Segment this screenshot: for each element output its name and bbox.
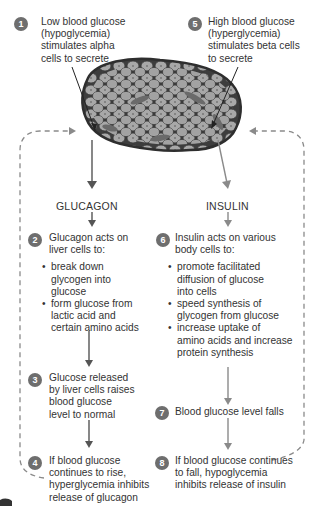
step-3-line: level to normal xyxy=(49,409,135,421)
step-7-line: Blood glucose level falls xyxy=(175,406,284,418)
bullet-line: lactic acid and xyxy=(51,310,164,322)
step-3-line: blood glucose xyxy=(49,396,135,408)
islet-cells-illustration xyxy=(82,59,240,151)
step-5-line: High blood glucose xyxy=(208,16,300,28)
step-6-bullets: promote facilitated diffusion of glucose… xyxy=(168,261,315,359)
step-4-badge: 4 xyxy=(28,456,42,470)
step-6-text: Insulin acts on various body cells to: p… xyxy=(175,232,315,359)
bullet-line: diffusion of glucose xyxy=(177,274,315,286)
bullet-item: promote facilitated diffusion of glucose… xyxy=(168,261,315,298)
step-5-line: to secrete xyxy=(208,53,300,65)
step-1-text: Low blood glucose (hypoglycemia) stimula… xyxy=(41,16,125,65)
glucagon-label: GLUCAGON xyxy=(56,200,118,212)
insulin-label: INSULIN xyxy=(206,200,249,212)
step-3-line: Glucose released xyxy=(49,372,135,384)
bullet-line: break down xyxy=(51,261,164,273)
bullet-line: glycogen from glucose xyxy=(177,310,315,322)
step-2-badge: 2 xyxy=(28,233,42,247)
step-1-line: stimulates alpha xyxy=(41,40,125,52)
step-1-line: cells to secrete xyxy=(41,53,125,65)
bullet-line: speed synthesis of xyxy=(177,298,315,310)
step-8-badge: 8 xyxy=(155,456,169,470)
step-8-line: to fall, hypoglycemia xyxy=(175,467,293,479)
bullet-item: form glucose from lactic acid and certai… xyxy=(42,298,164,335)
bullet-item: break down glycogen into glucose xyxy=(42,261,164,298)
step-4-line: release of glucagon xyxy=(49,492,149,504)
step-5-line: (hyperglycemia) xyxy=(208,28,300,40)
step-2-line: Glucagon acts on xyxy=(49,232,164,244)
step-4-line: hyperglycemia inhibits xyxy=(49,479,149,491)
step-1-badge: 1 xyxy=(14,17,28,31)
step-3-badge: 3 xyxy=(28,373,42,387)
step-6-line: Insulin acts on various xyxy=(175,232,315,244)
step-5-badge: 5 xyxy=(188,17,202,31)
step-2-line: liver cells to: xyxy=(49,244,164,256)
bullet-line: amino acids and increase xyxy=(177,335,315,347)
bullet-line: glycogen into xyxy=(51,274,164,286)
step-6-badge: 6 xyxy=(156,233,170,247)
step-8-line: If blood glucose continues xyxy=(175,455,293,467)
step-7-text: Blood glucose level falls xyxy=(175,406,284,418)
bullet-line: into cells xyxy=(177,286,315,298)
step-5-line: stimulates beta cells xyxy=(208,40,300,52)
bullet-item: speed synthesis of glycogen from glucose xyxy=(168,298,315,322)
step-2-bullets: break down glycogen into glucose form gl… xyxy=(42,261,164,334)
step-4-line: continues to rise, xyxy=(49,467,149,479)
bullet-line: form glucose from xyxy=(51,298,164,310)
bullet-item: increase uptake of amino acids and incre… xyxy=(168,322,315,359)
step-8-line: inhibits release of insulin xyxy=(175,479,293,491)
step-4-line: If blood glucose xyxy=(49,455,149,467)
step-3-text: Glucose released by liver cells raises b… xyxy=(49,372,135,421)
step-1-line: Low blood glucose xyxy=(41,16,125,28)
bullet-line: protein synthesis xyxy=(177,347,315,359)
step-2-text: Glucagon acts on liver cells to: break d… xyxy=(49,232,164,335)
step-6-line: body cells to: xyxy=(175,244,315,256)
bullet-line: certain amino acids xyxy=(51,322,164,334)
step-3-line: by liver cells raises xyxy=(49,384,135,396)
bullet-line: glucose xyxy=(51,286,164,298)
bullet-line: increase uptake of xyxy=(177,322,315,334)
step-5-text: High blood glucose (hyperglycemia) stimu… xyxy=(208,16,300,65)
step-1-line: (hypoglycemia) xyxy=(41,28,125,40)
step-7-badge: 7 xyxy=(155,406,169,420)
step-4-text: If blood glucose continues to rise, hype… xyxy=(49,455,149,504)
step-8-text: If blood glucose continues to fall, hypo… xyxy=(175,455,293,492)
bullet-line: promote facilitated xyxy=(177,261,315,273)
